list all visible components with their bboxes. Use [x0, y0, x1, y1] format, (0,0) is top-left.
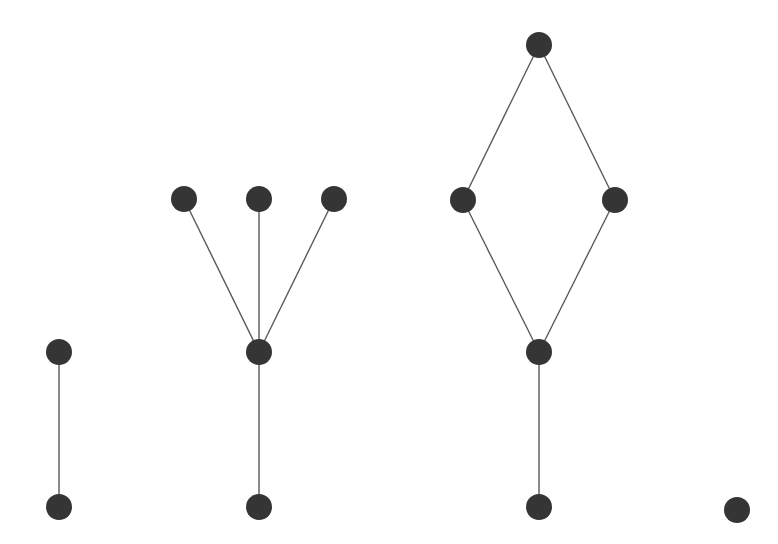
edge-c1-c2: [463, 45, 539, 200]
node-c1: [526, 32, 552, 58]
edges-layer: [59, 45, 615, 507]
node-b4: [246, 339, 272, 365]
nodes-layer: [46, 32, 750, 523]
node-b2: [246, 186, 272, 212]
node-c2: [450, 187, 476, 213]
node-c5: [526, 494, 552, 520]
node-b5: [246, 494, 272, 520]
node-b1: [171, 186, 197, 212]
edge-c3-c4: [539, 200, 615, 352]
node-c4: [526, 339, 552, 365]
node-b3: [321, 186, 347, 212]
node-a1: [46, 339, 72, 365]
graph-diagram: [0, 0, 778, 544]
node-c3: [602, 187, 628, 213]
edge-c2-c4: [463, 200, 539, 352]
node-a2: [46, 494, 72, 520]
edge-c1-c3: [539, 45, 615, 200]
edge-b1-b4: [184, 199, 259, 352]
node-d1: [724, 497, 750, 523]
edge-b3-b4: [259, 199, 334, 352]
